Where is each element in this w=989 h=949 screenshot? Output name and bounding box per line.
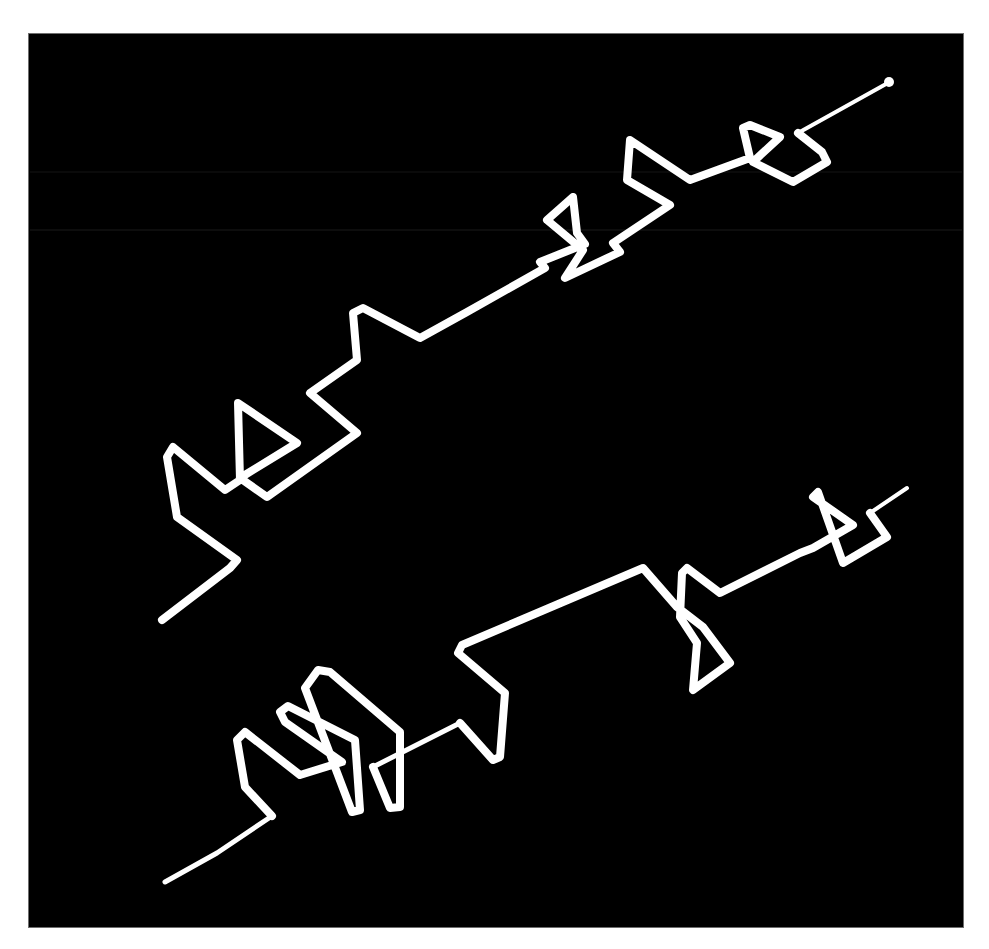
lower-scribble-tail-stroke [870,488,907,513]
upper-scribble-tail-stroke [798,84,886,133]
figure-canvas [0,0,989,949]
lower-scribble-start-stroke [165,816,272,882]
lower-scribble-middle-stroke [373,723,460,767]
scribble-drawing [0,0,989,949]
lower-scribble-stroke [237,670,400,816]
upper-scribble-stroke [162,125,827,620]
lower-scribble-right-stroke [458,492,887,760]
endpoint-dot [884,77,894,87]
